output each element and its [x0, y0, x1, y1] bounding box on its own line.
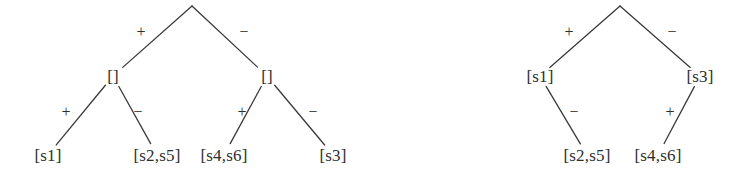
tree-node-l-n2: []	[261, 68, 273, 85]
tree-node-r-n1: [s1]	[526, 68, 553, 85]
tree-node-r-leaf2: [s4,s6]	[634, 147, 681, 164]
tree-edge	[550, 6, 620, 67]
tree-node-l-leaf4: [s3]	[319, 147, 346, 164]
tree-edge	[620, 6, 690, 67]
tree-node-l-leaf3: [s4,s6]	[200, 147, 247, 164]
edge-label-minus: −	[667, 24, 676, 40]
edge-label-minus: −	[308, 104, 317, 120]
edge-label-minus: −	[133, 104, 142, 120]
edge-label-minus: −	[239, 24, 248, 40]
figure-canvas: +−+−+−[][][s1][s2,s5][s4,s6][s3]+−−+[s1]…	[0, 0, 746, 173]
tree-node-l-leaf1: [s1]	[34, 147, 61, 164]
edge-label-plus: +	[237, 104, 246, 120]
tree-node-l-n1: []	[107, 68, 119, 85]
tree-node-r-leaf1: [s2,s5]	[563, 147, 610, 164]
edge-label-plus: +	[136, 24, 145, 40]
edge-label-minus: −	[569, 104, 578, 120]
tree-node-r-n2: [s3]	[686, 68, 713, 85]
edge-label-plus: +	[665, 104, 674, 120]
edge-label-plus: +	[564, 24, 573, 40]
tree-edge	[123, 6, 192, 67]
tree-node-l-leaf2: [s2,s5]	[133, 147, 180, 164]
edge-label-plus: +	[61, 104, 70, 120]
